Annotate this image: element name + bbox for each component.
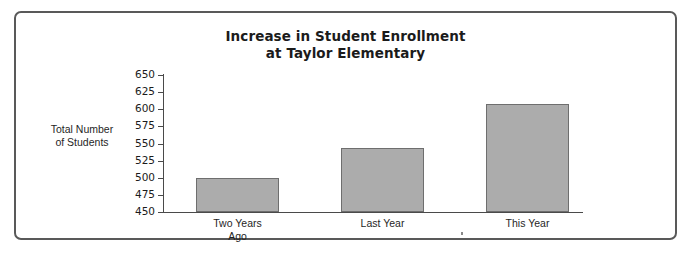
y-tick-label: 450	[135, 205, 155, 218]
y-tick-label: 650	[135, 68, 155, 81]
x-axis-label-line: Last Year	[319, 217, 446, 230]
x-axis-label-1: Last Year	[319, 217, 446, 230]
y-tick-475: 475	[117, 195, 164, 196]
y-tick-label: 600	[135, 102, 155, 115]
x-axis-label-0: Two YearsAgo	[174, 217, 301, 243]
y-tick-label: 575	[135, 119, 155, 132]
x-axis-label-line: Two Years	[174, 217, 301, 230]
y-tick-mark	[158, 161, 164, 162]
x-axis-label-2: This Year	[464, 217, 591, 230]
x-axis-line	[163, 212, 583, 213]
bar-two-years-ago	[196, 178, 279, 212]
y-axis-title-line-1: Total Number	[44, 123, 120, 136]
bar-last-year	[341, 148, 424, 212]
x-axis-label-line: Ago	[174, 230, 301, 243]
y-tick-450: 450	[117, 212, 164, 213]
chart-title: Increase in Student Enrollment at Taylor…	[16, 28, 675, 62]
y-tick-label: 500	[135, 171, 155, 184]
y-axis-title-line-2: of Students	[44, 136, 120, 149]
y-tick-mark	[158, 75, 164, 76]
y-tick-label: 625	[135, 85, 155, 98]
y-tick-650: 650	[117, 75, 164, 76]
chart-frame: Increase in Student Enrollment at Taylor…	[14, 11, 677, 240]
y-tick-label: 475	[135, 188, 155, 201]
x-axis-label-line: This Year	[464, 217, 591, 230]
y-tick-mark	[158, 144, 164, 145]
y-tick-525: 525	[117, 161, 164, 162]
y-tick-label: 525	[135, 154, 155, 167]
y-tick-mark	[158, 212, 164, 213]
bar-this-year	[486, 104, 569, 212]
y-tick-600: 600	[117, 109, 164, 110]
scan-artifact-speck	[461, 232, 463, 235]
chart-title-line-2: at Taylor Elementary	[16, 45, 675, 62]
chart-title-line-1: Increase in Student Enrollment	[16, 28, 675, 45]
y-tick-mark	[158, 195, 164, 196]
y-tick-mark	[158, 92, 164, 93]
y-axis-title: Total Number of Students	[44, 123, 120, 149]
y-tick-500: 500	[117, 178, 164, 179]
plot-area: 650625600575550525500475450 Two YearsAgo…	[164, 75, 594, 212]
y-tick-label: 550	[135, 137, 155, 150]
y-tick-mark	[158, 109, 164, 110]
y-tick-550: 550	[117, 144, 164, 145]
y-tick-mark	[158, 178, 164, 179]
y-tick-mark	[158, 126, 164, 127]
y-tick-625: 625	[117, 92, 164, 93]
y-tick-575: 575	[117, 126, 164, 127]
